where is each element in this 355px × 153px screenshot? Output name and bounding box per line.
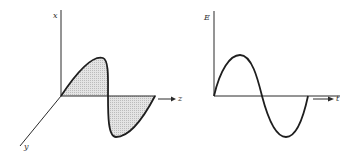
z-direction-arrow [158,97,176,102]
x-axis-label: x [53,11,58,20]
t-axis-label: t [336,94,340,103]
y-axis-diagonal [20,96,61,146]
right-diagram: E t [203,11,340,137]
left-diagram: x z y [20,10,183,151]
wave-fill-positive [61,58,108,96]
y-axis-label: y [23,142,29,151]
wave-diagrams: x z y E t [0,0,355,153]
t-direction-arrow [313,97,334,102]
z-axis-label: z [177,94,183,103]
e-axis-label: E [203,13,210,22]
wave-fill-negative [108,96,155,137]
